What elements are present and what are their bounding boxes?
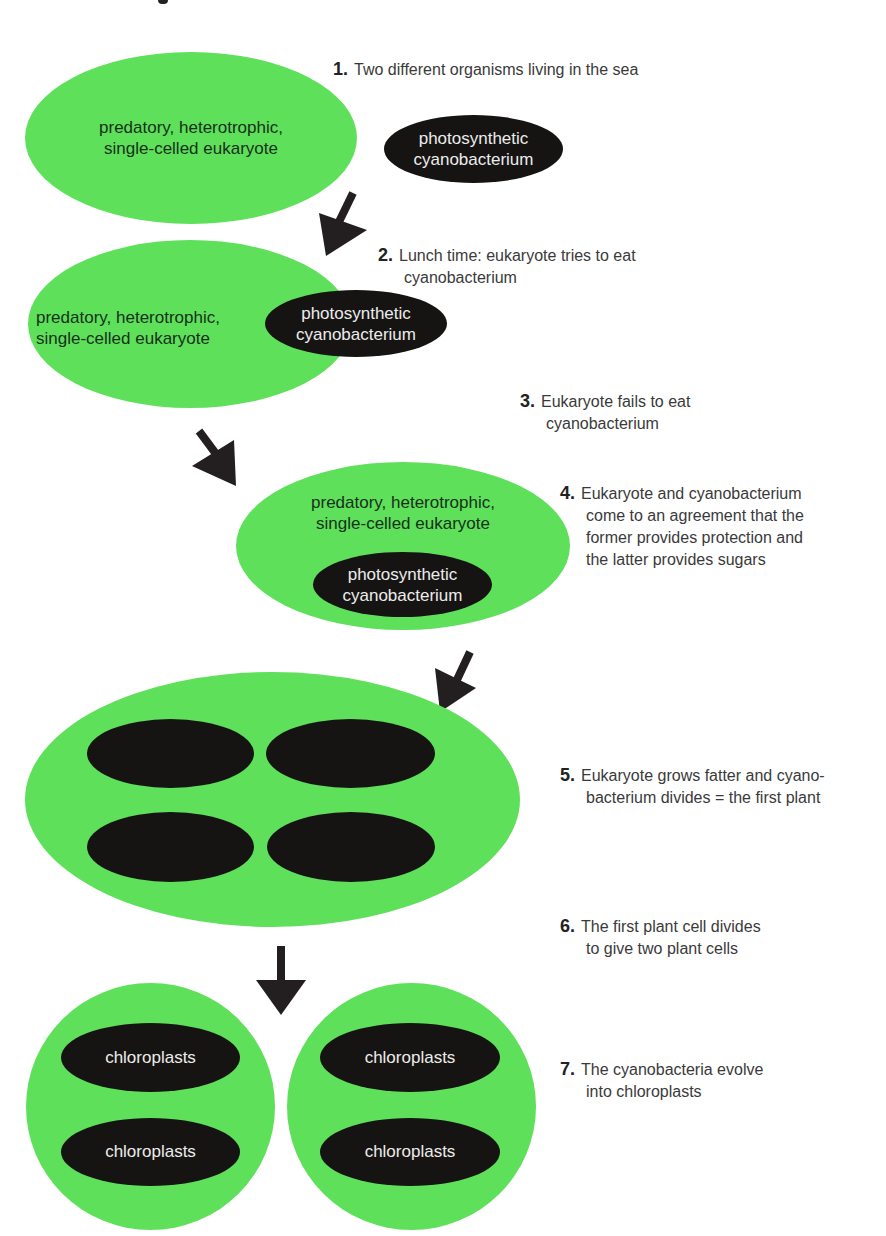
plant-cell-right — [287, 983, 536, 1230]
step-6-text: 6.The first plant cell divides to give t… — [560, 915, 761, 960]
plant-cell-left — [26, 983, 275, 1230]
step-4-text: 4.Eukaryote and cyanobacterium come to a… — [560, 482, 804, 571]
chloroplast: chloroplasts — [61, 1118, 240, 1186]
step-7-text: 7.The cyanobacteria evolve into chloropl… — [560, 1058, 763, 1103]
chloroplast: chloroplasts — [61, 1023, 240, 1092]
step-2-text: 2.Lunch time: eukaryote tries to eat cya… — [378, 244, 636, 289]
chloroplast: chloroplasts — [320, 1118, 500, 1186]
step-5-text: 5.Eukaryote grows fatter and cyano- bact… — [560, 764, 825, 809]
step-1-text: 1.Two different organisms living in the … — [333, 58, 638, 81]
step-3-text: 3.Eukaryote fails to eat cyanobacterium — [520, 390, 690, 435]
chloroplast: chloroplasts — [320, 1023, 500, 1092]
